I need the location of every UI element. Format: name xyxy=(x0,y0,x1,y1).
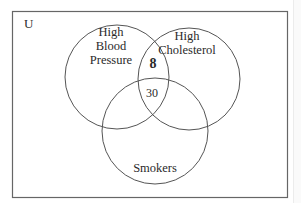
region-all-three-value: 30 xyxy=(146,86,158,100)
set-label-bp-3: Pressure xyxy=(90,53,133,67)
page-edge xyxy=(293,0,301,203)
universe-label: U xyxy=(24,16,34,31)
set-label-smokers: Smokers xyxy=(133,161,177,175)
venn-diagram: U High Blood Pressure High Cholesterol S… xyxy=(0,0,301,203)
set-label-bp-1: High xyxy=(99,25,125,39)
region-bp-chol-value: 8 xyxy=(150,56,157,71)
set-label-chol-2: Cholesterol xyxy=(158,43,216,57)
set-label-bp-2: Blood xyxy=(96,39,127,53)
set-label-chol-1: High xyxy=(175,29,201,43)
